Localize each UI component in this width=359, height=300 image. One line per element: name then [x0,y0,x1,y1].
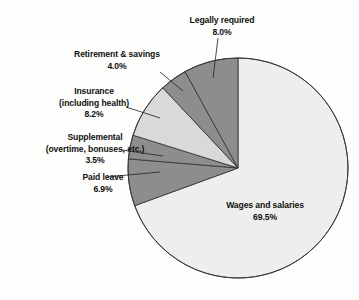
pie-wedge-group [128,58,348,278]
pie-label-paid-leave: Paid leave6.9% [82,172,123,194]
pie-chart-svg: Wages and salaries69.5%Paid leave6.9%Sup… [0,0,359,300]
pie-chart-container: Wages and salaries69.5%Paid leave6.9%Sup… [0,0,359,300]
pie-label-retirement-savings: Retirement & savings4.0% [74,49,160,71]
pie-label-insurance-including-health: Insurance(including health)8.2% [59,86,129,119]
pie-label-legally-required: Legally required8.0% [190,15,255,37]
